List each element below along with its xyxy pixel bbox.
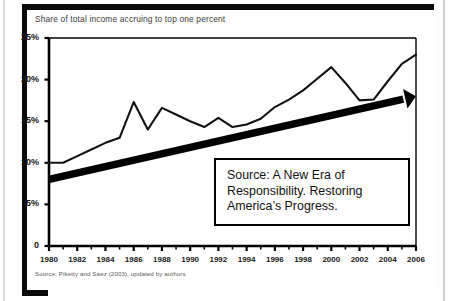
scanned-page: Share of total income accruing to top on…: [0, 0, 449, 301]
y-tick-label: 25%: [5, 32, 39, 42]
source-note: Source: Piketty and Saez (2003), updated…: [35, 270, 187, 277]
y-tick-label: 10%: [5, 157, 39, 167]
y-tick-label: 20%: [5, 74, 39, 84]
callout-line-3: America’s Progress.: [227, 199, 398, 215]
y-tick-label: 5%: [5, 198, 39, 208]
callout-line-1: Source: A New Era of: [227, 168, 398, 184]
callout-source-box: Source: A New Era of Responsibility. Res…: [214, 158, 410, 226]
y-tick-label: 0: [5, 240, 39, 250]
x-tick-label: 2006: [399, 255, 433, 264]
y-tick-label: 15%: [5, 115, 39, 125]
callout-line-2: Responsibility. Restoring: [227, 184, 398, 200]
